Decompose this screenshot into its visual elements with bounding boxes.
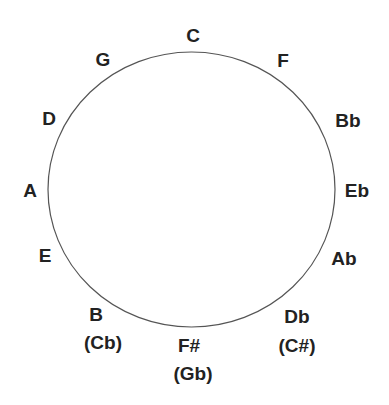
note-label-c-sharp: (C#)	[279, 335, 316, 356]
note-label-bb: Bb	[335, 110, 360, 131]
note-label-b: B	[89, 304, 103, 325]
note-label-f: F	[277, 50, 289, 71]
note-label-d: D	[42, 108, 56, 129]
note-label-c: C	[186, 25, 200, 46]
note-label-e: E	[39, 245, 52, 266]
note-label-a: A	[23, 180, 37, 201]
note-label-g: G	[96, 49, 111, 70]
circle-outline	[48, 52, 335, 327]
note-label-ab: Ab	[331, 248, 356, 269]
circle-of-fifths-diagram: CFBbEbAbDb(C#)F#(Gb)B(Cb)EADG	[0, 0, 389, 405]
note-label-db: Db	[284, 306, 309, 327]
note-label-gb: (Gb)	[173, 363, 212, 384]
note-label-f-sharp: F#	[178, 335, 201, 356]
note-labels: CFBbEbAbDb(C#)F#(Gb)B(Cb)EADG	[23, 25, 369, 384]
note-label-cb: (Cb)	[84, 332, 122, 353]
note-label-eb: Eb	[345, 180, 369, 201]
